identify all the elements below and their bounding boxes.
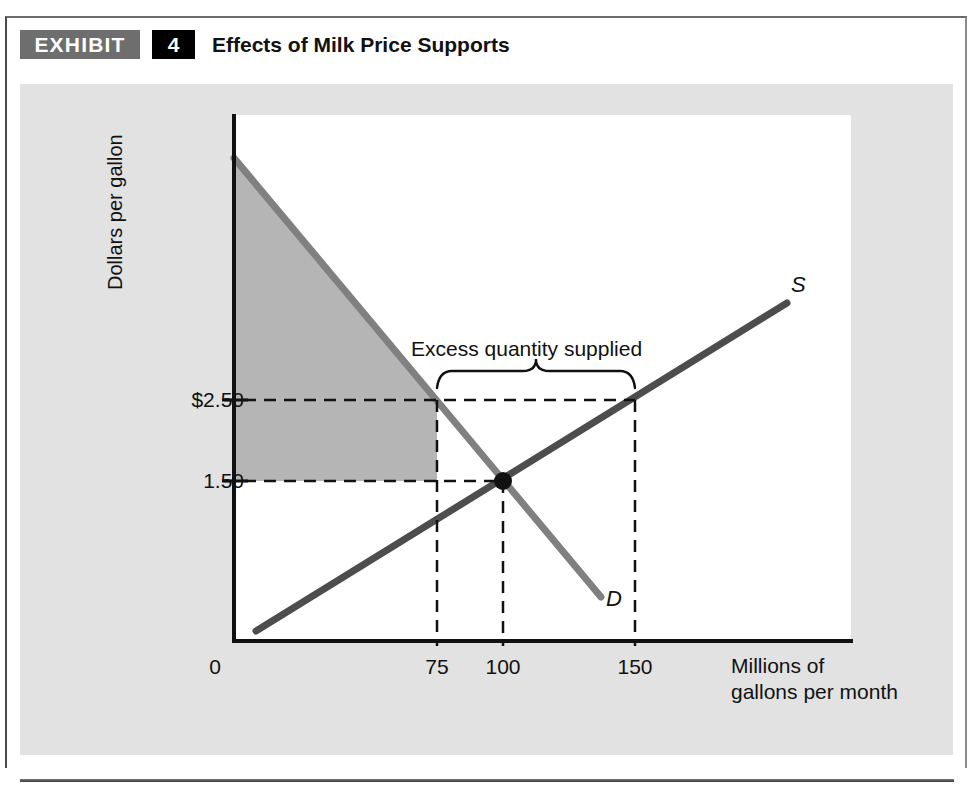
y-axis-title: Dollars per gallon [104, 90, 127, 290]
y-tick-label-250: $2.50 [172, 388, 244, 412]
y-tick-label-150: 1.50 [172, 469, 244, 493]
equilibrium-point-marker [494, 472, 512, 490]
shaded-expenditure-area-upper [234, 158, 437, 481]
x-tick-label-100: 100 [473, 655, 533, 679]
x-axis-title: Millions of gallons per month [731, 653, 898, 705]
exhibit-figure-page: EXHIBIT 4 Effects of Milk Price Supports [0, 0, 974, 792]
x-tick-label-75: 75 [413, 655, 461, 679]
x-tick-label-150: 150 [605, 655, 665, 679]
supply-curve-label: S [791, 272, 806, 298]
excess-quantity-label: Excess quantity supplied [411, 337, 642, 361]
excess-quantity-bracket [437, 359, 635, 388]
demand-curve-label: D [606, 586, 622, 612]
x-tick-label-0: 0 [202, 655, 228, 679]
footer-divider [20, 779, 954, 782]
x-axis-title-line1: Millions of [731, 653, 898, 679]
x-axis-title-line2: gallons per month [731, 679, 898, 705]
